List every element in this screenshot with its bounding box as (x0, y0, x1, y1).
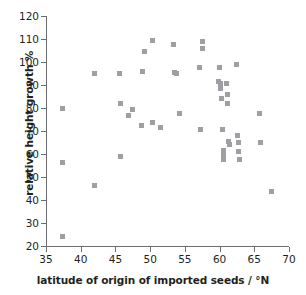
x-tick-label: 40 (68, 254, 94, 265)
x-tick-mark (115, 247, 116, 252)
data-point (235, 133, 240, 138)
data-point (177, 111, 182, 116)
data-point (198, 127, 203, 132)
data-point (217, 65, 222, 70)
data-point (258, 140, 263, 145)
y-tick-label: 40 (13, 195, 39, 206)
data-point (158, 125, 163, 130)
data-point (200, 39, 205, 44)
data-point (197, 65, 202, 70)
data-point (139, 123, 144, 128)
data-point (234, 62, 239, 67)
data-point (225, 101, 230, 106)
data-point (117, 71, 122, 76)
y-tick-mark (41, 85, 46, 86)
data-point (225, 92, 230, 97)
x-tick-mark (185, 247, 186, 252)
data-point (200, 46, 205, 51)
x-tick-mark (46, 247, 47, 252)
data-point (220, 127, 225, 132)
data-point (60, 234, 65, 239)
y-tick-mark (41, 177, 46, 178)
data-point (126, 113, 131, 118)
data-point (174, 71, 179, 76)
data-point (60, 160, 65, 165)
y-tick-mark (41, 131, 46, 132)
data-point (171, 42, 176, 47)
x-tick-mark (289, 247, 290, 252)
data-point (118, 154, 123, 159)
data-point (221, 157, 226, 162)
data-point (218, 81, 223, 86)
data-point (227, 142, 232, 147)
data-point (236, 149, 241, 154)
data-point (140, 69, 145, 74)
x-tick-label: 60 (207, 254, 233, 265)
y-tick-label: 20 (13, 241, 39, 252)
data-point (92, 71, 97, 76)
y-tick-label: 80 (13, 103, 39, 114)
data-point (118, 101, 123, 106)
y-tick-label: 90 (13, 80, 39, 91)
data-point (60, 106, 65, 111)
x-axis-title: latitude of origin of imported seeds / °… (0, 275, 306, 286)
y-tick-mark (41, 108, 46, 109)
y-tick-label: 120 (13, 11, 39, 22)
x-tick-label: 45 (102, 254, 128, 265)
y-tick-mark (41, 154, 46, 155)
data-point (150, 120, 155, 125)
data-point (218, 86, 223, 91)
y-tick-label: 70 (13, 126, 39, 137)
data-point (150, 38, 155, 43)
y-tick-label: 50 (13, 172, 39, 183)
data-point (92, 183, 97, 188)
data-point (219, 96, 224, 101)
y-tick-label: 110 (13, 34, 39, 45)
y-tick-label: 100 (13, 57, 39, 68)
x-tick-mark (150, 247, 151, 252)
y-axis-line (46, 16, 47, 247)
scatter-plot-figure: relative height growth % latitude of ori… (0, 0, 306, 295)
y-tick-mark (41, 62, 46, 63)
x-tick-label: 55 (172, 254, 198, 265)
data-point (130, 107, 135, 112)
y-tick-mark (41, 223, 46, 224)
x-axis-line (46, 246, 289, 247)
x-tick-label: 70 (276, 254, 302, 265)
x-tick-mark (220, 247, 221, 252)
data-point (236, 140, 241, 145)
x-tick-label: 35 (33, 254, 59, 265)
x-tick-mark (81, 247, 82, 252)
y-tick-mark (41, 16, 46, 17)
data-point (224, 81, 229, 86)
y-tick-mark (41, 39, 46, 40)
x-tick-label: 50 (137, 254, 163, 265)
data-point (269, 189, 274, 194)
y-tick-mark (41, 200, 46, 201)
x-tick-label: 65 (241, 254, 267, 265)
y-tick-label: 30 (13, 218, 39, 229)
data-point (257, 111, 262, 116)
y-tick-label: 60 (13, 149, 39, 160)
data-point (237, 157, 242, 162)
x-tick-mark (254, 247, 255, 252)
data-point (142, 49, 147, 54)
